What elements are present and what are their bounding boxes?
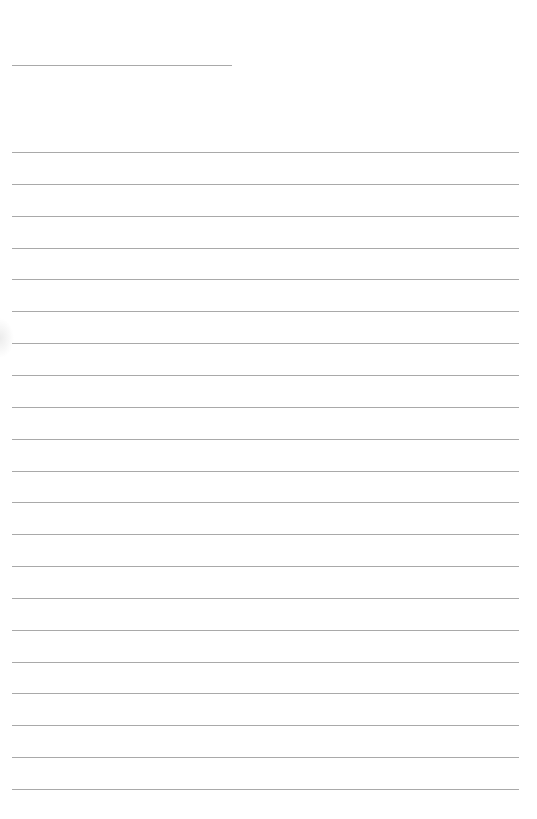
ruled-line (12, 789, 519, 790)
ruled-line (12, 279, 519, 280)
ruled-line (12, 630, 519, 631)
ruled-line (12, 725, 519, 726)
ruled-line (12, 311, 519, 312)
ruled-line (12, 662, 519, 663)
ruled-line (12, 152, 519, 153)
name-header-line (12, 65, 232, 66)
ruled-line (12, 598, 519, 599)
ruled-line (12, 534, 519, 535)
ruled-line (12, 471, 519, 472)
ruled-line (12, 566, 519, 567)
ruled-line (12, 216, 519, 217)
ruled-line (12, 502, 519, 503)
ruled-line (12, 407, 519, 408)
ruled-line (12, 375, 519, 376)
ruled-line (12, 184, 519, 185)
ruled-line (12, 248, 519, 249)
ruled-line (12, 757, 519, 758)
ruled-line (12, 439, 519, 440)
paper-smudge (0, 318, 14, 358)
ruled-line (12, 693, 519, 694)
ruled-line (12, 343, 519, 344)
lined-paper-page (0, 0, 537, 819)
